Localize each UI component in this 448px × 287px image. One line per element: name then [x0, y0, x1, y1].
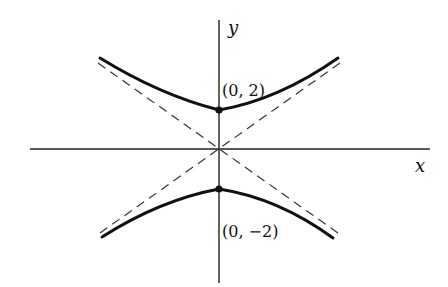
vertex-label-lower: (0, −2): [222, 222, 278, 241]
asymptote-positive-slope: [100, 63, 340, 233]
lower-branch: [102, 189, 333, 238]
y-axis-label: y: [227, 17, 239, 38]
vertex-label-upper: (0, 2): [222, 81, 265, 100]
vertex-point-lower: [215, 185, 222, 192]
asymptote-negative-slope: [98, 63, 338, 233]
x-axis-label: x: [415, 155, 425, 176]
vertex-point-upper: [215, 106, 222, 113]
hyperbola-diagram: y x (0, 2) (0, −2): [0, 0, 448, 287]
